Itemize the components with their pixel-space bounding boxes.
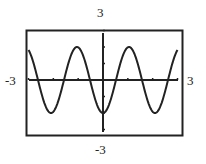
ymax-label: 3 xyxy=(97,6,104,19)
graph-plot xyxy=(0,0,206,164)
xmax-label: 3 xyxy=(187,74,194,87)
xmin-label: -3 xyxy=(5,74,16,87)
axes xyxy=(29,31,179,133)
ymin-label: -3 xyxy=(95,143,106,156)
